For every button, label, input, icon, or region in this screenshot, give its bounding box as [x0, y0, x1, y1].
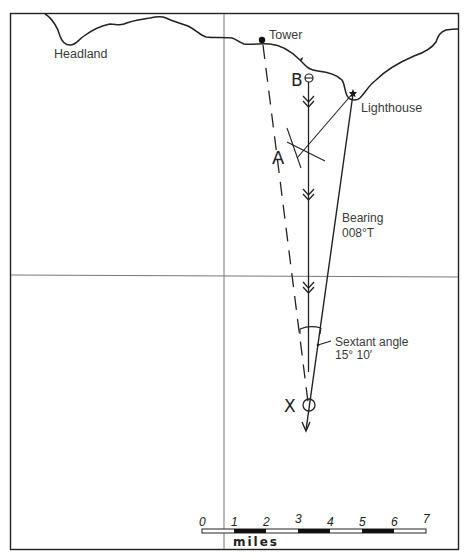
- lighthouse-label: Lighthouse: [361, 101, 422, 115]
- scale-tick-0: 0: [199, 515, 206, 529]
- scale-tick-5: 5: [359, 515, 366, 529]
- bearing-value: 008°T: [342, 226, 375, 240]
- scale-tick-7: 7: [423, 512, 431, 526]
- sextant-angle-arc: [300, 327, 321, 329]
- scale-unit-label: miles: [233, 535, 279, 549]
- position-a-label: A: [272, 147, 285, 168]
- sextant-label: Sextant angle: [335, 335, 409, 349]
- bearing-label: Bearing: [342, 211, 383, 225]
- position-x-label: X: [284, 396, 296, 416]
- scale-tick-6: 6: [391, 515, 398, 529]
- sextant-value: 15° 10′: [335, 348, 373, 362]
- scale-tick-1: 1: [231, 515, 238, 529]
- tower-label: Tower: [269, 28, 302, 42]
- position-b-label: B: [291, 70, 303, 90]
- chart-diagram: Tower Headland Lighthouse B A Bearing 00…: [0, 0, 465, 560]
- scale-bar: 0 1 2 3 4 5 6 7 miles: [199, 512, 431, 549]
- scale-tick-3: 3: [295, 512, 302, 526]
- sextant-leader-line: [318, 341, 331, 345]
- tower-transit-line: [263, 45, 308, 402]
- tower-icon: [259, 37, 265, 43]
- headland-label: Headland: [54, 47, 108, 61]
- scale-tick-4: 4: [327, 515, 334, 529]
- bearing-line: [306, 94, 353, 430]
- map-border: [11, 14, 459, 550]
- position-line-a2: [287, 142, 325, 161]
- parallel-gridline: [11, 275, 458, 277]
- scale-tick-2: 2: [262, 515, 270, 529]
